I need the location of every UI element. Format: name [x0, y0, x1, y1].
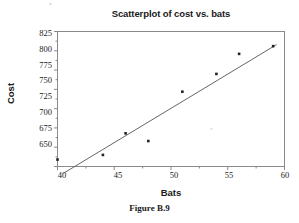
scatter-plot	[0, 0, 299, 223]
data-point	[56, 158, 59, 161]
data-point-group	[56, 45, 274, 161]
data-point	[102, 154, 105, 157]
data-point	[238, 53, 241, 56]
data-point	[215, 73, 218, 76]
scan-speck	[210, 128, 213, 130]
data-point	[272, 45, 275, 48]
data-point	[147, 140, 150, 143]
data-point	[124, 132, 127, 135]
data-point	[181, 90, 184, 93]
plot-frame	[58, 32, 285, 167]
scan-speck	[49, 3, 52, 5]
axis-tick-marks	[54, 32, 285, 171]
trendline	[63, 45, 276, 174]
figure-container: Scatterplot of cost vs. bats Cost Bats 8…	[0, 0, 299, 223]
figure-caption: Figure B.9	[0, 203, 299, 213]
